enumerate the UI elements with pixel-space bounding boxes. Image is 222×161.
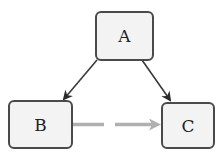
node-b[interactable]: B [8, 100, 73, 149]
node-c[interactable]: C [161, 102, 215, 149]
node-c-label: C [181, 116, 194, 136]
node-b-label: B [34, 115, 47, 135]
node-a-label: A [118, 26, 130, 46]
diagram-canvas: A B C [0, 0, 222, 161]
edge-a-to-c [142, 60, 170, 100]
edge-a-to-b [64, 60, 97, 99]
node-a[interactable]: A [95, 11, 154, 61]
